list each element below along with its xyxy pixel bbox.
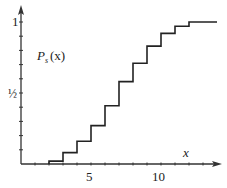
y-tick-label-half: ½ bbox=[8, 87, 17, 101]
axes bbox=[18, 5, 222, 167]
x-tick-label-10: 10 bbox=[152, 169, 165, 184]
x-tick-label-5: 5 bbox=[86, 169, 93, 184]
series-label-main: P bbox=[36, 48, 45, 63]
step-series-line bbox=[49, 22, 217, 164]
series-label-sub: s bbox=[45, 56, 48, 65]
series-label-arg: (x) bbox=[50, 48, 65, 63]
x-axis-label: x bbox=[182, 145, 189, 160]
series-label: P s (x) bbox=[36, 48, 65, 65]
y-tick-label-1: 1 bbox=[12, 14, 19, 29]
cdf-step-chart: 1 ½ 5 10 x P s (x) bbox=[0, 0, 227, 188]
axis-ticks bbox=[19, 22, 203, 166]
